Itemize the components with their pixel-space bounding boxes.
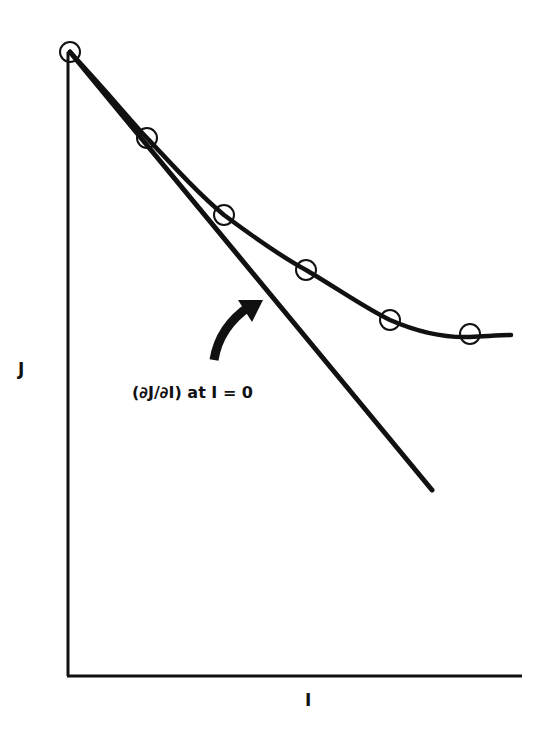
chart-canvas <box>0 0 549 739</box>
x-axis-label: I <box>305 690 311 710</box>
tangent-line <box>70 52 432 490</box>
curved-arrow-icon <box>214 300 263 360</box>
tangent-annotation: (∂J/∂I) at I = 0 <box>132 383 253 402</box>
data-markers <box>60 42 480 344</box>
data-curve <box>70 52 511 337</box>
y-axis-label: J <box>18 359 24 379</box>
data-point <box>460 324 480 344</box>
